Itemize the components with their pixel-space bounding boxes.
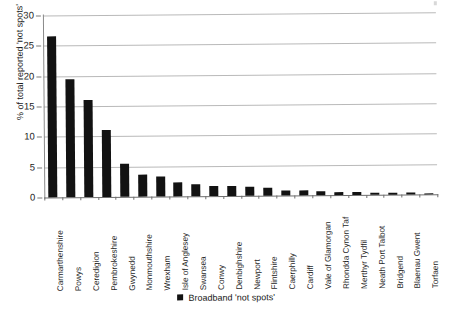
category-label: Blaenau Gwent xyxy=(414,232,423,288)
category-label: Powys xyxy=(75,267,83,291)
x-tick-mark xyxy=(134,197,135,200)
x-tick-mark xyxy=(169,196,170,199)
x-tick-mark xyxy=(437,194,438,197)
bar xyxy=(84,100,94,197)
x-tick-mark xyxy=(366,195,367,198)
y-tick-label: 15 xyxy=(24,101,35,111)
category-label: Monmouthshire xyxy=(146,234,155,291)
category-label: Ceredigion xyxy=(93,251,102,291)
x-tick-mark xyxy=(80,197,81,200)
y-tick-label: 20 xyxy=(24,71,35,81)
x-tick-mark xyxy=(152,197,153,200)
bar xyxy=(227,186,236,196)
category-label: Neath Port Talbot xyxy=(378,226,387,289)
x-tick-mark xyxy=(98,197,99,200)
category-label: Gwynedd xyxy=(128,256,136,291)
y-tick-label: 25 xyxy=(24,41,35,51)
y-tick-label: 5 xyxy=(30,162,35,172)
y-tick-mark xyxy=(37,197,42,198)
category-label: Rhondda Cynon Taf xyxy=(342,217,351,289)
category-label: Torfaen xyxy=(432,261,440,288)
x-tick-mark xyxy=(348,195,349,198)
category-label: Bridgend xyxy=(396,256,404,289)
bar xyxy=(192,185,201,197)
x-tick-mark xyxy=(44,197,45,200)
x-tick-mark xyxy=(223,196,224,199)
category-label: Newport xyxy=(253,259,261,290)
y-tick-mark xyxy=(37,106,42,107)
x-tick-mark xyxy=(116,197,117,200)
category-label: Isle of Anglesey xyxy=(182,233,191,290)
category-label: Pembrokeshire xyxy=(110,236,119,291)
y-tick-label: 0 xyxy=(30,192,35,202)
bar xyxy=(263,188,272,196)
chart-legend: Broadband 'not spots' xyxy=(1,290,450,304)
category-label: Flintshire xyxy=(271,256,279,289)
bar xyxy=(66,79,76,197)
x-tick-mark xyxy=(419,194,420,197)
bar xyxy=(245,187,254,196)
scan-artifact xyxy=(434,1,437,5)
category-label: Merthyr Tydfil xyxy=(360,240,369,289)
x-tick-mark xyxy=(384,195,385,198)
x-tick-mark xyxy=(330,195,331,198)
y-tick-mark xyxy=(36,76,41,77)
x-tick-mark xyxy=(312,195,313,198)
category-label: Swansea xyxy=(200,256,208,290)
y-tick-label: 30 xyxy=(23,10,34,20)
y-tick-mark xyxy=(37,167,42,168)
category-label: Cardiff xyxy=(307,265,315,289)
category-label: Conwy xyxy=(218,265,226,290)
chart-figure: % of total reported 'not spots' 05101520… xyxy=(0,0,450,309)
x-tick-mark xyxy=(241,196,242,199)
x-axis-category-labels: CarmarthenshirePowysCeredigionPembrokesh… xyxy=(44,198,439,293)
bar xyxy=(138,174,147,197)
y-tick-mark xyxy=(36,15,41,16)
bar-series xyxy=(43,12,437,197)
x-tick-mark xyxy=(402,195,403,198)
y-tick-mark xyxy=(36,46,41,47)
x-tick-mark xyxy=(62,197,63,200)
category-label: Wrexham xyxy=(164,256,172,291)
bar xyxy=(47,37,57,198)
x-tick-mark xyxy=(205,196,206,199)
category-label: Vale of Glamorgan xyxy=(325,221,334,289)
y-tick-label: 10 xyxy=(24,132,35,142)
x-tick-mark xyxy=(277,196,278,199)
bar xyxy=(120,164,129,197)
bar xyxy=(102,130,112,197)
category-label: Caerphilly xyxy=(289,253,297,289)
category-label: Carmarthenshire xyxy=(57,230,66,291)
x-tick-mark xyxy=(259,196,260,199)
x-tick-mark xyxy=(187,196,188,199)
legend-swatch xyxy=(177,294,183,300)
bar xyxy=(209,186,218,196)
x-tick-mark xyxy=(294,195,295,198)
bar xyxy=(174,182,183,196)
category-label: Denbighshire xyxy=(235,242,244,290)
legend-entry: Broadband 'not spots' xyxy=(177,292,275,303)
y-axis-ticks: 051015202530 xyxy=(0,1,44,211)
legend-label: Broadband 'not spots' xyxy=(188,292,275,303)
bar xyxy=(156,176,165,196)
y-tick-mark xyxy=(37,137,42,138)
